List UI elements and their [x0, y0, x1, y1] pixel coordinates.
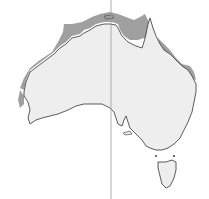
island-king [155, 155, 157, 157]
island-flinders [173, 155, 175, 157]
island-melville [104, 15, 114, 19]
australia-map [0, 0, 209, 199]
